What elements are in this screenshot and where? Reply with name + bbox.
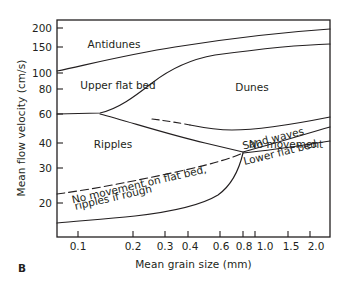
region-label-ripples: Ripples <box>94 138 132 150</box>
y-ticklabel: 80 <box>39 83 52 95</box>
y-ticklabel: 200 <box>32 22 52 34</box>
x-ticklabel: 0.8 <box>236 240 253 252</box>
x-ticklabel: 2.0 <box>308 240 325 252</box>
x-ticklabel: 0.4 <box>182 240 199 252</box>
region-label-upper-flat-bed: Upper flat bed <box>80 79 155 91</box>
x-ticklabel: 0.1 <box>70 240 87 252</box>
y-ticklabel: 40 <box>39 137 52 149</box>
x-ticklabel: 0.3 <box>157 240 174 252</box>
x-ticklabel: 0.2 <box>125 240 142 252</box>
x-ticklabel: 0.6 <box>213 240 230 252</box>
y-ticklabel: 20 <box>39 197 52 209</box>
y-axis-ticklabels: 200 150 100 80 60 40 30 20 <box>32 22 52 209</box>
y-ticklabel: 100 <box>32 67 52 79</box>
x-ticklabel: 1.5 <box>283 240 300 252</box>
bedform-phase-diagram: 200 150 100 80 60 40 30 20 0.1 0.2 0.3 <box>0 0 346 283</box>
region-label-antidunes: Antidunes <box>88 38 141 50</box>
y-ticklabel: 30 <box>39 162 52 174</box>
chart-svg: 200 150 100 80 60 40 30 20 0.1 0.2 0.3 <box>0 0 346 283</box>
region-label-dunes: Dunes <box>235 81 268 93</box>
panel-letter: B <box>18 262 26 274</box>
y-axis-title: Mean flow velocity (cm/s) <box>15 28 27 228</box>
x-axis-title: Mean grain size (mm) <box>57 258 330 270</box>
y-ticklabel: 60 <box>39 108 52 120</box>
y-ticklabel: 150 <box>32 41 52 53</box>
x-axis-ticklabels: 0.1 0.2 0.3 0.4 0.6 0.8 1.0 1.5 2.0 <box>70 240 325 252</box>
x-ticklabel: 1.0 <box>257 240 274 252</box>
